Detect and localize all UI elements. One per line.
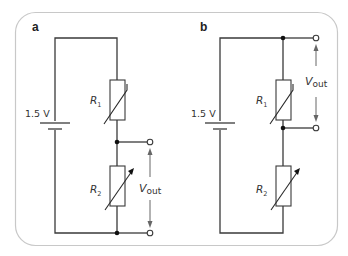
- junction-dot: [115, 231, 120, 236]
- output-terminal: [313, 125, 319, 131]
- battery-voltage-label: 1.5 V: [25, 108, 50, 119]
- battery-icon: [40, 121, 70, 130]
- output-terminal: [147, 139, 153, 145]
- panel-label-b: b: [200, 20, 207, 34]
- output-terminal: [313, 35, 319, 41]
- battery-voltage-label: 1.5 V: [191, 108, 216, 119]
- junction-dot: [281, 36, 286, 41]
- junction-dot: [115, 140, 120, 145]
- potential-divider-diagram: a 1.5 V R1 R2: [0, 0, 348, 256]
- output-terminal: [147, 230, 153, 236]
- junction-dot: [281, 126, 286, 131]
- panel-label-a: a: [32, 20, 39, 34]
- battery-icon: [205, 121, 235, 130]
